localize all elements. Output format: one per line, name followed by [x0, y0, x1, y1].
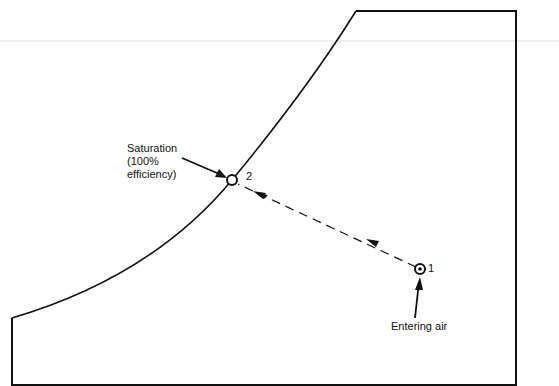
point-1-label: 1	[428, 262, 434, 274]
saturation-curve	[12, 11, 356, 318]
point-1-center-dot	[418, 267, 422, 271]
process-arrow-icon-lower	[366, 239, 379, 247]
saturation-label: Saturation (100% efficiency)	[127, 142, 177, 181]
entering-air-arrowhead-icon	[415, 277, 423, 290]
psychrometric-diagram	[0, 0, 559, 386]
point-2-marker	[227, 175, 237, 185]
saturation-arrowhead-icon	[215, 169, 227, 178]
entering-air-label: Entering air	[391, 320, 447, 333]
point-2-label: 2	[246, 170, 252, 182]
